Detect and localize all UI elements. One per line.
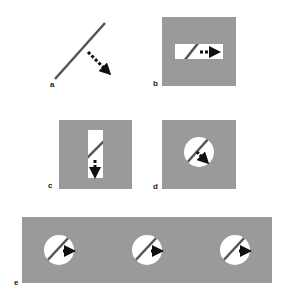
panel-label-c: c [48,181,53,190]
panel-label-e: e [14,278,19,287]
panel-label-d: d [153,182,158,191]
aperture-problem-figure: a b c d [0,0,286,297]
panel-label-a: a [50,80,55,89]
bar-line [55,23,105,79]
panel-b: b [153,17,236,88]
panel-c: c [48,120,132,190]
aperture-rect [175,44,223,59]
panel-d: d [153,120,236,191]
panel-e: e [14,217,272,287]
motion-arrow-icon [88,52,107,71]
panel-a: a [50,23,107,89]
panel-label-b: b [153,79,158,88]
